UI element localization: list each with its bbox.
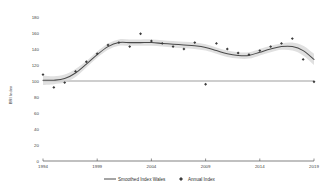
legend-diamond-swatch <box>179 177 183 181</box>
x-tick-label: 1994 <box>38 164 48 169</box>
y-axis-tick-labels: 020406080100120140160180 <box>32 15 40 164</box>
y-tick-label: 120 <box>32 63 40 68</box>
smoothed-index-line <box>43 42 314 80</box>
y-axis-title: BRI Index <box>8 85 13 104</box>
x-tick-label: 1999 <box>92 164 102 169</box>
y-tick-label: 80 <box>34 95 39 100</box>
legend-label-smoothed: Smoothed Index Wales <box>118 177 166 182</box>
x-axis-tick-labels: 199419992004200920142019 <box>38 164 319 169</box>
y-tick-label: 100 <box>32 79 40 84</box>
chart-container: 020406080100120140160180 199419992004200… <box>0 0 325 189</box>
confidence-band <box>43 39 314 85</box>
legend-label-annual: Annual Index <box>188 177 216 182</box>
data-point <box>139 32 142 35</box>
x-axis-tick-marks <box>43 159 314 162</box>
x-tick-label: 2014 <box>255 164 265 169</box>
y-tick-label: 140 <box>32 47 40 52</box>
x-tick-label: 2004 <box>147 164 157 169</box>
data-point <box>52 86 55 89</box>
y-tick-label: 40 <box>34 127 39 132</box>
data-point <box>291 37 294 40</box>
data-point <box>226 48 229 51</box>
y-tick-label: 160 <box>32 31 40 36</box>
data-point <box>204 83 207 86</box>
y-tick-label: 60 <box>34 111 39 116</box>
y-tick-label: 180 <box>32 15 40 20</box>
x-tick-label: 2019 <box>309 164 319 169</box>
chart-legend: Smoothed Index Wales Annual Index <box>104 177 216 182</box>
data-point <box>302 58 305 61</box>
annual-index-points <box>42 32 316 89</box>
bri-index-chart: 020406080100120140160180 199419992004200… <box>0 0 325 189</box>
y-tick-label: 0 <box>37 159 40 164</box>
data-point <box>215 42 218 45</box>
y-tick-label: 20 <box>34 143 39 148</box>
x-tick-label: 2009 <box>201 164 211 169</box>
